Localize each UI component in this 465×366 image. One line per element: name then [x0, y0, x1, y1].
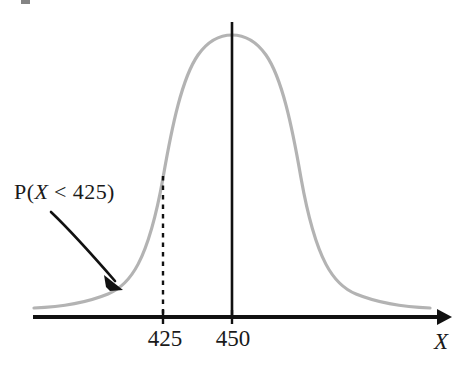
- tick-label-450: 450: [210, 326, 256, 352]
- x-axis-arrowhead: [437, 309, 452, 325]
- x-axis-label: X: [434, 329, 448, 355]
- probability-annotation-label: P(X < 425): [14, 179, 115, 205]
- tick-label-425: 425: [142, 326, 188, 352]
- annotation-arrow-shaft: [51, 212, 115, 281]
- normal-distribution-figure: P(X < 425) 425 450 X: [0, 0, 465, 366]
- probability-prefix: P(: [14, 179, 34, 204]
- probability-relation: < 425): [48, 179, 115, 204]
- probability-variable: X: [34, 179, 48, 204]
